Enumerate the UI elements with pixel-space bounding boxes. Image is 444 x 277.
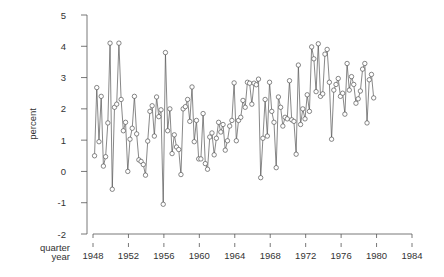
data-point bbox=[92, 154, 96, 158]
data-point bbox=[225, 139, 229, 143]
data-point bbox=[150, 104, 154, 108]
data-point bbox=[194, 118, 198, 122]
data-point bbox=[247, 81, 251, 85]
data-point bbox=[239, 115, 243, 119]
data-point bbox=[360, 67, 364, 71]
data-point bbox=[243, 105, 247, 109]
data-point bbox=[121, 129, 125, 133]
data-point bbox=[294, 152, 298, 156]
y-tick-label: -1 bbox=[58, 197, 66, 208]
data-point bbox=[261, 136, 265, 140]
data-point bbox=[223, 148, 227, 152]
y-tick-label: 5 bbox=[61, 10, 66, 21]
data-point bbox=[356, 97, 360, 101]
data-point bbox=[154, 95, 158, 99]
data-point bbox=[349, 74, 353, 78]
y-tick-label: 1 bbox=[61, 135, 66, 146]
data-point bbox=[340, 91, 344, 95]
data-point bbox=[103, 155, 107, 159]
data-point bbox=[296, 63, 300, 67]
data-point bbox=[254, 83, 258, 87]
data-point bbox=[115, 102, 119, 106]
data-point bbox=[363, 61, 367, 65]
data-point bbox=[301, 107, 305, 111]
data-point bbox=[367, 78, 371, 82]
data-point bbox=[201, 111, 205, 115]
data-point bbox=[134, 132, 138, 136]
data-point bbox=[232, 81, 236, 85]
data-point bbox=[210, 131, 214, 135]
y-tick-label: -2 bbox=[58, 229, 66, 240]
data-point bbox=[274, 165, 278, 169]
data-point bbox=[334, 82, 338, 86]
x-tick-label: 1968 bbox=[260, 250, 281, 261]
data-point bbox=[352, 82, 356, 86]
data-point bbox=[163, 50, 167, 54]
data-point bbox=[285, 117, 289, 121]
data-point bbox=[128, 137, 132, 141]
data-point bbox=[323, 52, 327, 56]
data-point bbox=[190, 85, 194, 89]
data-point bbox=[307, 109, 311, 113]
data-point bbox=[263, 97, 267, 101]
data-point bbox=[214, 136, 218, 140]
data-point bbox=[347, 88, 351, 92]
data-point bbox=[292, 119, 296, 123]
data-point bbox=[168, 107, 172, 111]
data-point bbox=[336, 76, 340, 80]
data-point bbox=[221, 122, 225, 126]
data-point bbox=[327, 80, 331, 84]
data-point bbox=[230, 118, 234, 122]
data-point bbox=[141, 162, 145, 166]
data-point bbox=[250, 102, 254, 106]
y-tick-label: 2 bbox=[61, 103, 66, 114]
data-point bbox=[321, 92, 325, 96]
data-point bbox=[314, 89, 318, 93]
data-point bbox=[132, 94, 136, 98]
data-point bbox=[258, 175, 262, 179]
x-tick-label: 1960 bbox=[189, 250, 210, 261]
y-axis-title: percent bbox=[27, 108, 38, 140]
x-axis-title-year: year bbox=[52, 251, 70, 262]
data-point bbox=[108, 41, 112, 45]
data-point bbox=[256, 77, 260, 81]
data-point bbox=[165, 129, 169, 133]
data-point bbox=[369, 72, 373, 76]
data-point bbox=[143, 173, 147, 177]
data-point bbox=[227, 124, 231, 128]
x-tick-label: 1980 bbox=[366, 250, 387, 261]
x-tick-label: 1948 bbox=[82, 250, 103, 261]
data-point bbox=[199, 157, 203, 161]
y-tick-label: 3 bbox=[61, 72, 66, 83]
data-point bbox=[365, 121, 369, 125]
data-point bbox=[276, 95, 280, 99]
data-point bbox=[97, 140, 101, 144]
data-point bbox=[177, 147, 181, 151]
data-point bbox=[146, 139, 150, 143]
data-point bbox=[188, 119, 192, 123]
data-point bbox=[203, 161, 207, 165]
data-point bbox=[157, 114, 161, 118]
data-point bbox=[106, 121, 110, 125]
data-point bbox=[270, 109, 274, 113]
data-point bbox=[192, 140, 196, 144]
data-point bbox=[329, 137, 333, 141]
data-point bbox=[152, 134, 156, 138]
x-tick-label: 1984 bbox=[401, 250, 422, 261]
x-axis: 1948195219561960196419681972197619801984 bbox=[82, 234, 422, 261]
data-point bbox=[183, 104, 187, 108]
data-point bbox=[281, 124, 285, 128]
x-tick-label: 1952 bbox=[118, 250, 139, 261]
x-tick-label: 1964 bbox=[224, 250, 245, 261]
data-point bbox=[272, 120, 276, 124]
data-point bbox=[159, 108, 163, 112]
data-point bbox=[110, 187, 114, 191]
data-point bbox=[185, 97, 189, 101]
x-tick-label: 1972 bbox=[295, 250, 316, 261]
data-point bbox=[354, 101, 358, 105]
data-point bbox=[234, 139, 238, 143]
data-point bbox=[208, 135, 212, 139]
data-point bbox=[172, 133, 176, 137]
data-point bbox=[216, 120, 220, 124]
data-point bbox=[303, 117, 307, 121]
